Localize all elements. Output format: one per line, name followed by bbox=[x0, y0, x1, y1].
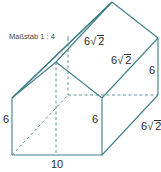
scale-label: Maßstab 1 : 4 bbox=[9, 33, 55, 41]
sqrt-icon: √ bbox=[117, 55, 123, 66]
prism-figure bbox=[0, 0, 161, 172]
sqrt-icon: √ bbox=[147, 121, 153, 132]
back-roof-right bbox=[112, 2, 158, 38]
label-front-height-left: 6 bbox=[3, 114, 9, 125]
label-radicand: 2 bbox=[97, 35, 104, 47]
sqrt-icon: √ bbox=[90, 36, 96, 47]
label-radicand: 2 bbox=[124, 54, 131, 66]
label-depth-bottom: 6√2 bbox=[141, 120, 161, 132]
label-front-height-right: 6 bbox=[92, 114, 98, 125]
label-roof-mid: 6√2 bbox=[111, 54, 131, 66]
label-width-bottom: 10 bbox=[51, 159, 63, 170]
label-back-height: 6 bbox=[149, 65, 155, 76]
ridge-edge bbox=[56, 2, 112, 62]
eave-edge-left-inner bbox=[14, 4, 110, 96]
hidden-depth-diagonal bbox=[12, 95, 68, 155]
label-roof-left: 6√2 bbox=[84, 35, 104, 47]
label-radicand: 2 bbox=[154, 120, 161, 132]
